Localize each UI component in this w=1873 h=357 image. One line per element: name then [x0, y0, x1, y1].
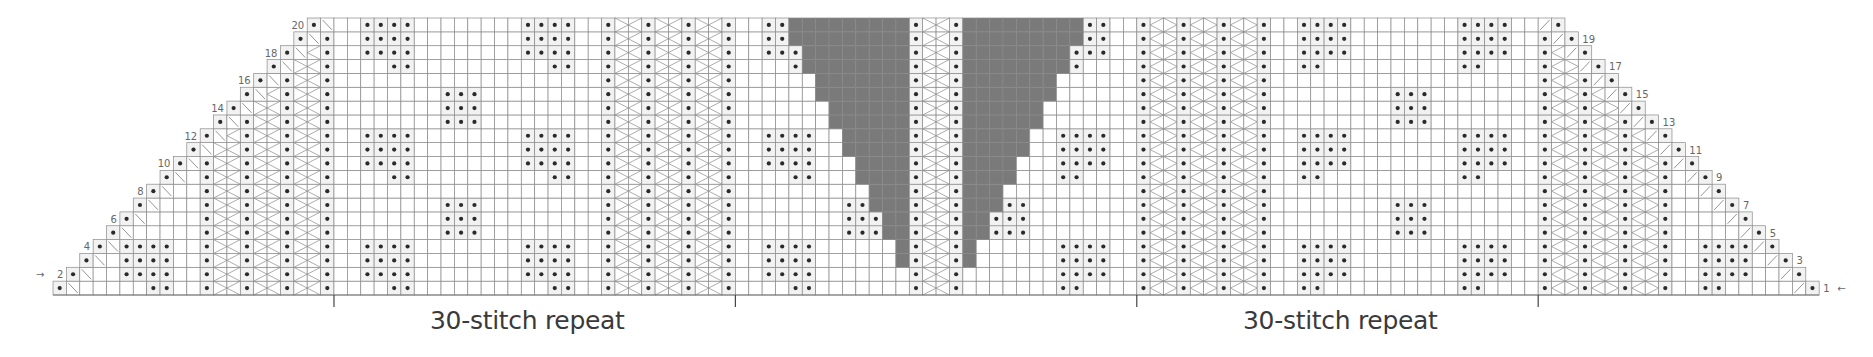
stitch-cell — [1030, 226, 1043, 240]
stitch-cell — [1511, 157, 1524, 171]
stitch-cell — [695, 46, 708, 60]
stitch-cell — [1605, 281, 1618, 295]
stitch-cell — [1123, 240, 1136, 254]
stitch-cell — [1525, 101, 1538, 115]
stitch-cell — [1244, 212, 1257, 226]
stitch-cell — [1164, 32, 1177, 46]
stitch-cell — [347, 115, 360, 129]
stitch-cell — [709, 129, 722, 143]
stitch-cell — [1672, 170, 1685, 184]
no-stitch-cell — [1003, 46, 1016, 60]
stitch-cell — [588, 129, 601, 143]
stitch-cell — [521, 212, 534, 226]
stitch-cell — [1351, 101, 1364, 115]
stitch-cell — [428, 101, 441, 115]
stitch-cell — [481, 143, 494, 157]
no-stitch-cell — [963, 253, 976, 267]
stitch-cell — [1284, 73, 1297, 87]
stitch-cell — [1431, 18, 1444, 32]
row-number: 4 — [84, 241, 90, 252]
stitch-cell — [1351, 198, 1364, 212]
stitch-cell — [1525, 60, 1538, 74]
stitch-cell — [668, 267, 681, 281]
stitch-cell — [307, 46, 320, 60]
stitch-cell — [1498, 87, 1511, 101]
stitch-cell — [1244, 226, 1257, 240]
stitch-cell — [521, 87, 534, 101]
stitch-cell — [816, 226, 829, 240]
stitch-cell — [1404, 129, 1417, 143]
stitch-cell — [414, 87, 427, 101]
stitch-cell — [749, 267, 762, 281]
stitch-cell — [1525, 226, 1538, 240]
stitch-cell — [481, 240, 494, 254]
no-stitch-cell — [896, 32, 909, 46]
stitch-cell — [1685, 281, 1698, 295]
no-stitch-cell — [883, 143, 896, 157]
stitch-cell — [468, 157, 481, 171]
stitch-cell — [1204, 101, 1217, 115]
no-stitch-cell — [963, 143, 976, 157]
stitch-cell — [1565, 267, 1578, 281]
stitch-cell — [1230, 46, 1243, 60]
stitch-cell — [1204, 281, 1217, 295]
stitch-cell — [441, 157, 454, 171]
stitch-cell — [521, 281, 534, 295]
stitch-cell — [1337, 101, 1350, 115]
stitch-cell — [695, 170, 708, 184]
stitch-cell — [388, 73, 401, 87]
row-number: 7 — [1743, 200, 1749, 211]
stitch-cell — [454, 157, 467, 171]
no-stitch-cell — [963, 32, 976, 46]
stitch-cell — [1284, 32, 1297, 46]
stitch-cell — [615, 143, 628, 157]
stitch-cell — [1030, 143, 1043, 157]
stitch-cell — [588, 212, 601, 226]
stitch-cell — [1391, 240, 1404, 254]
stitch-cell — [615, 129, 628, 143]
stitch-cell — [1043, 226, 1056, 240]
stitch-cell — [1445, 115, 1458, 129]
stitch-cell — [254, 198, 267, 212]
stitch-cell — [1043, 143, 1056, 157]
stitch-cell — [575, 212, 588, 226]
stitch-cell — [709, 60, 722, 74]
stitch-cell — [695, 60, 708, 74]
no-stitch-cell — [896, 198, 909, 212]
stitch-cell — [1110, 73, 1123, 87]
stitch-cell — [441, 170, 454, 184]
stitch-cell — [1511, 115, 1524, 129]
stitch-cell — [1271, 129, 1284, 143]
stitch-cell — [1083, 281, 1096, 295]
no-stitch-cell — [1003, 157, 1016, 171]
stitch-cell — [762, 281, 775, 295]
knitting-chart: 1234567891011121314151617181920←→ — [0, 0, 1873, 357]
stitch-cell — [1271, 32, 1284, 46]
stitch-cell — [990, 281, 1003, 295]
stitch-cell — [1097, 184, 1110, 198]
stitch-cell — [628, 46, 641, 60]
no-stitch-cell — [1043, 18, 1056, 32]
stitch-cell — [1284, 157, 1297, 171]
no-stitch-cell — [1030, 32, 1043, 46]
stitch-cell — [709, 73, 722, 87]
stitch-cell — [1204, 46, 1217, 60]
stitch-cell — [1311, 184, 1324, 198]
stitch-cell — [173, 253, 186, 267]
stitch-cell — [1190, 46, 1203, 60]
stitch-cell — [508, 73, 521, 87]
stitch-cell — [347, 240, 360, 254]
stitch-cell — [1030, 184, 1043, 198]
stitch-cell — [936, 212, 949, 226]
stitch-cell — [842, 267, 855, 281]
stitch-cell — [294, 198, 307, 212]
stitch-cell — [441, 143, 454, 157]
stitch-cell — [842, 184, 855, 198]
stitch-cell — [361, 115, 374, 129]
stitch-cell — [923, 157, 936, 171]
stitch-cell — [347, 32, 360, 46]
stitch-cell — [535, 101, 548, 115]
stitch-cell — [254, 170, 267, 184]
stitch-cell — [548, 226, 561, 240]
stitch-cell — [508, 267, 521, 281]
